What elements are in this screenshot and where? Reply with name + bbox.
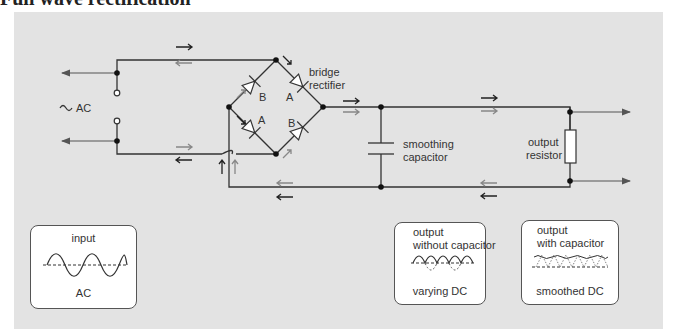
capacitor-label-line1: smoothing [403, 138, 454, 151]
ac-terminals [114, 90, 120, 124]
resistor-label-line1: output [528, 136, 559, 149]
panel-caption: varying DC [395, 285, 485, 298]
ac-source-icon [60, 106, 72, 111]
panel-caption: smoothed DC [522, 285, 618, 298]
diodes [241, 73, 309, 142]
diode-label-b2: B [288, 117, 295, 130]
junction-dots [114, 57, 573, 190]
panel-title-line1: output [413, 226, 444, 239]
output-without-capacitor-panel: output without capacitor varying DC [394, 222, 486, 305]
panel-title-line2: without capacitor [413, 239, 496, 252]
resistor-label-line2: resistor [526, 149, 562, 162]
panel-title: input [31, 232, 136, 245]
bridge-label-line1: bridge [309, 66, 340, 79]
panel-caption: AC [31, 287, 136, 300]
capacitor-label-line2: capacitor [403, 151, 448, 164]
ac-source-label: AC [76, 102, 91, 115]
bridge-label-line2: rectifier [309, 79, 345, 92]
diode-label-b1: B [259, 91, 266, 104]
input-ac-panel: input AC [30, 225, 137, 309]
rectified-wave-icon [395, 253, 487, 279]
sine-wave-icon [31, 250, 138, 280]
panel-title-line2: with capacitor [537, 237, 604, 250]
panel-title-line1: output [537, 224, 568, 237]
smoothed-wave-icon [522, 251, 620, 277]
resistor-icon [565, 130, 576, 163]
diode-label-a1: A [286, 91, 293, 104]
output-with-capacitor-panel: output with capacitor smoothed DC [521, 220, 619, 305]
terminal-arrows [62, 73, 630, 181]
diode-label-a2: A [258, 114, 265, 127]
